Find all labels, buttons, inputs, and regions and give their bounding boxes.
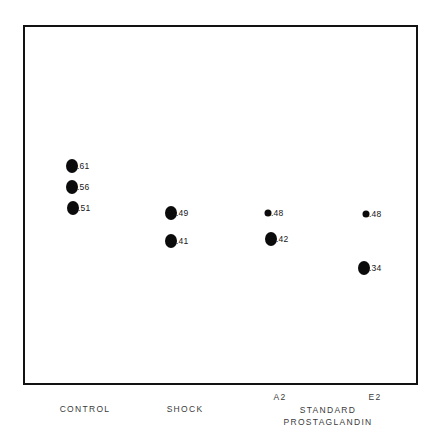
data-point-label: .61 — [77, 161, 89, 171]
data-point-label: .48 — [369, 209, 381, 219]
data-point-label: .41 — [176, 236, 188, 246]
data-point-label: .42 — [276, 234, 288, 244]
data-point-label: .56 — [77, 182, 89, 192]
data-point-label: .51 — [78, 203, 90, 213]
plot-frame: .61 .56 .51 .49 .41 .48 — [23, 25, 418, 385]
category-label-a2: A2 — [274, 392, 287, 402]
category-label-shock: SHOCK — [167, 404, 204, 414]
scatter-plot-figure: .61 .56 .51 .49 .41 .48 — [0, 0, 444, 433]
group-label-line-2: PROSTAGLANDIN — [283, 416, 372, 428]
group-label-line-1: STANDARD — [283, 404, 372, 416]
data-point-label: .49 — [176, 208, 188, 218]
group-label-standard-prostaglandin: STANDARD PROSTAGLANDIN — [283, 404, 372, 428]
plot-area: .61 .56 .51 .49 .41 .48 — [25, 27, 416, 383]
category-label-e2: E2 — [369, 392, 382, 402]
category-label-control: CONTROL — [60, 404, 111, 414]
data-point-label: .48 — [271, 208, 283, 218]
data-point-label: .34 — [369, 263, 381, 273]
